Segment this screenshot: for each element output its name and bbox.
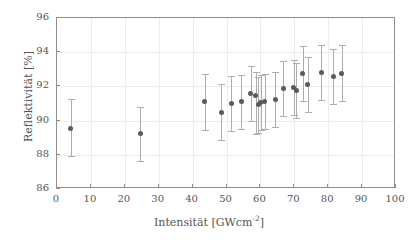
error-bar-cap (318, 100, 325, 101)
x-tick-label: 100 (375, 193, 415, 204)
data-point (305, 82, 310, 87)
error-bar-cap (258, 130, 265, 131)
x-axis-title-tail: ] (260, 216, 264, 229)
error-bar-cap (272, 127, 279, 128)
error-bar-cap (305, 57, 312, 58)
error-bar-cap (339, 45, 346, 46)
gridline-vertical (193, 18, 194, 187)
error-bar-cap (293, 118, 300, 119)
data-point (331, 74, 336, 79)
error-bar-cap (68, 156, 75, 157)
data-point (219, 110, 224, 115)
y-tick-mark (56, 120, 60, 121)
gridline-vertical (159, 18, 160, 187)
x-tick-mark (259, 184, 260, 188)
y-tick-mark (56, 51, 60, 52)
error-bar-cap (272, 72, 279, 73)
x-tick-mark (361, 184, 362, 188)
data-point (202, 99, 207, 104)
error-bar-cap (280, 116, 287, 117)
y-axis-title: Reflektivität [%] (22, 7, 35, 187)
gridline-vertical (125, 18, 126, 187)
gridline-horizontal (57, 52, 394, 53)
y-tick-mark (56, 154, 60, 155)
x-axis-title-exponent: -2 (252, 214, 259, 223)
error-bar-cap (68, 99, 75, 100)
data-point (239, 99, 244, 104)
error-bar-cap (253, 134, 260, 135)
data-point (339, 71, 344, 76)
data-point (294, 88, 299, 93)
error-bar-cap (137, 161, 144, 162)
x-tick-mark (293, 184, 294, 188)
error-bar-cap (255, 133, 262, 134)
error-bar-cap (330, 49, 337, 50)
error-bar-cap (258, 75, 265, 76)
y-tick-mark (56, 188, 60, 189)
error-bar-cap (202, 74, 209, 75)
error-bar-cap (330, 104, 337, 105)
error-bar-cap (262, 74, 269, 75)
gridline-horizontal (57, 121, 394, 122)
error-bar-cap (238, 129, 245, 130)
data-point (281, 86, 286, 91)
gridline-horizontal (57, 86, 394, 87)
error-bar-cap (202, 130, 209, 131)
gridline-vertical (91, 18, 92, 187)
gridline-vertical (362, 18, 363, 187)
x-tick-mark (192, 184, 193, 188)
plot-area (56, 17, 395, 188)
error-bar-cap (300, 46, 307, 47)
error-bar-cap (228, 76, 235, 77)
y-tick-mark (56, 17, 60, 18)
x-axis-title: Intensität [GWcm-2] (0, 214, 418, 229)
data-point (138, 131, 143, 136)
error-bar-cap (300, 101, 307, 102)
error-bar-cap (218, 84, 225, 85)
gridline-horizontal (57, 155, 394, 156)
data-point (68, 126, 73, 131)
error-bar-cap (248, 66, 255, 67)
x-tick-mark (327, 184, 328, 188)
error-bar-cap (318, 45, 325, 46)
error-bar-cap (291, 60, 298, 61)
x-tick-mark (226, 184, 227, 188)
data-point (300, 71, 305, 76)
error-bar-cap (305, 112, 312, 113)
x-tick-mark (158, 184, 159, 188)
data-point (273, 97, 278, 102)
error-bar-cap (238, 75, 245, 76)
error-bar-cap (339, 101, 346, 102)
error-bar-cap (248, 121, 255, 122)
y-tick-mark (56, 85, 60, 86)
error-bar-cap (228, 131, 235, 132)
error-bar-cap (262, 129, 269, 130)
error-bar-cap (253, 72, 260, 73)
gridline-vertical (227, 18, 228, 187)
gridline-vertical (328, 18, 329, 187)
x-tick-mark (395, 184, 396, 188)
error-bar-cap (280, 61, 287, 62)
x-tick-mark (124, 184, 125, 188)
x-axis-title-main: Intensität [GWcm (154, 216, 252, 229)
error-bar-cap (137, 107, 144, 108)
reflectivity-vs-intensity-chart: 0102030405060708090100 868890929496 Inte… (0, 0, 418, 240)
data-point (229, 101, 234, 106)
error-bar-cap (293, 63, 300, 64)
data-point (319, 70, 324, 75)
x-tick-mark (90, 184, 91, 188)
data-point (262, 99, 267, 104)
error-bar-cap (218, 140, 225, 141)
